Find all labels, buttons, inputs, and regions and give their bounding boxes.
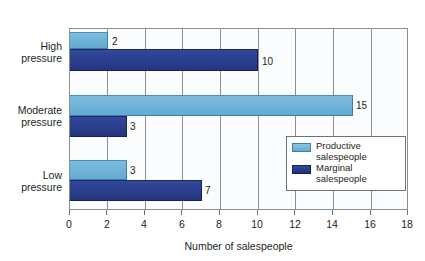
bar-moderate-productive[interactable] — [70, 95, 353, 116]
value-label-moderate-productive: 15 — [356, 101, 367, 111]
value-label-low-productive: 3 — [130, 166, 136, 176]
tick-label-14: 14 — [317, 219, 347, 230]
bar-high-productive[interactable] — [70, 32, 108, 49]
bar-chart: 2 10 15 3 3 7 High pressure Moderate pre… — [0, 0, 425, 261]
tick-8 — [219, 210, 220, 215]
legend-item-marginal[interactable]: Marginal salespeople — [292, 163, 400, 184]
tick-14 — [332, 210, 333, 215]
category-label-low-line2: pressure — [0, 181, 62, 193]
category-label-moderate-line2: pressure — [0, 116, 62, 128]
tick-18 — [407, 210, 408, 215]
tick-label-6: 6 — [167, 219, 197, 230]
category-label-low: Low pressure — [0, 169, 62, 193]
legend-swatch-productive-icon — [292, 143, 311, 152]
tick-label-8: 8 — [204, 219, 234, 230]
tick-label-10: 10 — [242, 219, 272, 230]
tick-0 — [69, 210, 70, 215]
tick-12 — [294, 210, 295, 215]
tick-10 — [257, 210, 258, 215]
tick-2 — [106, 210, 107, 215]
legend-label-marginal-line1: Marginal — [316, 163, 367, 174]
legend-item-productive[interactable]: Productive salespeople — [292, 141, 400, 162]
category-label-moderate-line1: Moderate — [0, 104, 62, 116]
tick-6 — [181, 210, 182, 215]
tick-16 — [370, 210, 371, 215]
bar-high-marginal[interactable] — [70, 49, 258, 71]
value-label-high-marginal: 10 — [262, 57, 273, 67]
legend-swatch-marginal-icon — [292, 165, 311, 174]
legend-label-marginal-line2: salespeople — [316, 174, 367, 185]
value-label-low-marginal: 7 — [205, 186, 211, 196]
category-label-high: High pressure — [0, 40, 62, 64]
tick-4 — [144, 210, 145, 215]
value-label-moderate-marginal: 3 — [130, 122, 136, 132]
gridline-10 — [258, 29, 259, 209]
tick-label-18: 18 — [392, 219, 422, 230]
legend-label-productive-line2: salespeople — [316, 152, 367, 163]
tick-label-4: 4 — [129, 219, 159, 230]
tick-label-16: 16 — [355, 219, 385, 230]
category-label-high-line1: High — [0, 40, 62, 52]
tick-label-2: 2 — [92, 219, 122, 230]
value-label-high-productive: 2 — [112, 37, 118, 47]
x-axis-title: Number of salespeople — [69, 240, 408, 252]
legend-label-marginal: Marginal salespeople — [316, 163, 367, 184]
category-label-moderate: Moderate pressure — [0, 104, 62, 128]
bar-low-productive[interactable] — [70, 160, 127, 180]
tick-label-12: 12 — [280, 219, 310, 230]
legend-label-productive-line1: Productive — [316, 141, 367, 152]
bar-moderate-marginal[interactable] — [70, 116, 127, 137]
tick-label-0: 0 — [54, 219, 84, 230]
category-label-low-line1: Low — [0, 169, 62, 181]
legend: Productive salespeople Marginal salespeo… — [286, 136, 406, 191]
category-label-high-line2: pressure — [0, 52, 62, 64]
legend-label-productive: Productive salespeople — [316, 141, 367, 162]
bar-low-marginal[interactable] — [70, 180, 202, 201]
